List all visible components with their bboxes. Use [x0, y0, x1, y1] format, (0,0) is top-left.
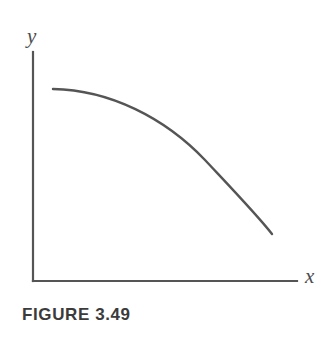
x-axis-label: x — [304, 264, 315, 288]
figure-container: y x FIGURE 3.49 — [0, 0, 327, 346]
figure-caption: FIGURE 3.49 — [22, 305, 131, 325]
curve-path — [53, 89, 272, 234]
plot-area: y x — [0, 0, 327, 346]
y-axis-label: y — [25, 24, 37, 48]
